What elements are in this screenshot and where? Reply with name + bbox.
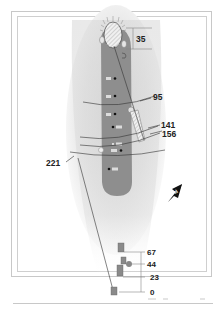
greenside-bunker-left	[100, 37, 105, 44]
green-depth-label: 35	[136, 34, 146, 44]
north-arrow-icon: N	[168, 184, 182, 202]
distance-label-221: 221	[46, 158, 60, 168]
tee-label-67: 67	[147, 248, 156, 257]
tee-label-44: 44	[147, 260, 156, 269]
greenside-bunker-right	[122, 41, 127, 48]
green	[104, 22, 122, 48]
distance-label-156: 156	[162, 129, 176, 139]
tee-label-0: 0	[150, 288, 155, 297]
fairway	[101, 30, 132, 196]
tee-label-23: 23	[150, 273, 159, 282]
tee-marker-dot	[126, 261, 132, 267]
hole-map: 35 95 141 156 221 N	[0, 0, 224, 324]
distance-label-95: 95	[153, 92, 163, 102]
